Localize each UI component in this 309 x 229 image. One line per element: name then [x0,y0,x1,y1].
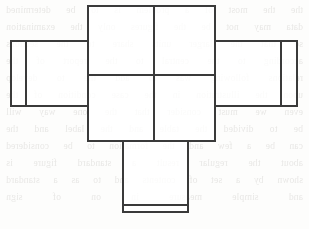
face-center-bottom-right [154,75,215,141]
face-left-wing-tab [11,41,26,106]
face-center-bottom-left [88,75,154,141]
face-right-wing [215,41,281,106]
face-right-wing-tab [281,41,297,106]
box-net-diagram [0,0,309,229]
face-bottom-flap [123,141,188,205]
face-left-wing [26,41,88,106]
scanned-page: the the most of a problem is to be deter… [0,0,309,229]
face-center-top-left [88,6,154,75]
box-net-svg [0,0,309,229]
face-bottom-flap-tab [123,205,188,212]
face-center-top-right [154,6,215,75]
